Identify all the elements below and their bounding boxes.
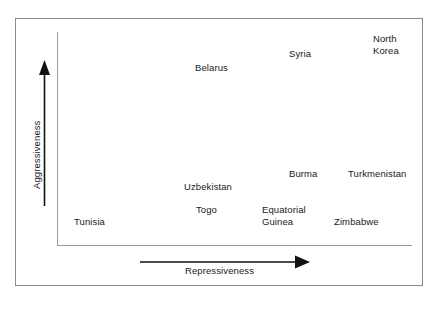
y-axis-line [57,32,58,246]
data-label-equatorial-guinea-line1: Equatorial [262,204,306,216]
data-label-north-korea-line1: North [373,33,397,45]
data-label-togo: Togo [196,204,217,216]
data-label-turkmenistan: Turkmenistan [348,168,406,180]
data-label-syria: Syria [289,48,311,60]
y-axis-label: Aggressiveness [31,121,42,189]
data-label-belarus: Belarus [195,62,228,74]
data-label-tunisia: Tunisia [74,216,105,228]
data-label-north-korea-line2: Korea [373,45,399,57]
data-label-burma: Burma [289,168,317,180]
x-axis-line [57,245,412,246]
x-axis-label: Repressiveness [185,265,254,276]
scatter-chart-figure: Aggressiveness Repressiveness Belarus Sy… [0,0,438,309]
data-label-zimbabwe: Zimbabwe [334,216,379,228]
data-label-equatorial-guinea-line2: Guinea [262,216,293,228]
data-label-uzbekistan: Uzbekistan [184,181,232,193]
